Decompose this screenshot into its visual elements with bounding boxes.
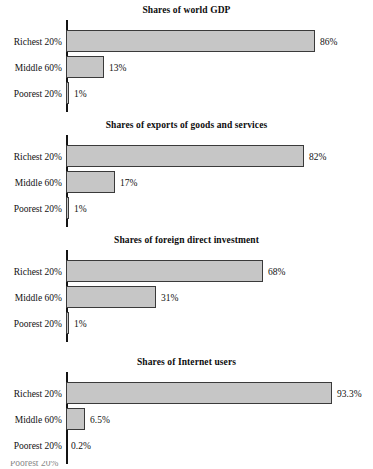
category-label: Middle 60% <box>0 415 62 425</box>
clipped-next-chart-label: Poorest 20% <box>0 461 373 469</box>
figure-page: Shares of world GDP Richest 20% 86% Midd… <box>0 0 373 469</box>
bar-row: Richest 20% 86% <box>0 30 373 56</box>
category-label: Middle 60% <box>0 293 62 303</box>
bar-row: Poorest 20% 1% <box>0 82 373 108</box>
bar-row: Richest 20% 93.3% <box>0 382 373 408</box>
category-label: Poorest 20% <box>0 89 62 99</box>
chart-title: Shares of foreign direct investment <box>0 235 373 245</box>
chart-title: Shares of world GDP <box>0 5 373 15</box>
bar[interactable] <box>66 145 304 167</box>
bar[interactable] <box>66 286 156 308</box>
category-label: Richest 20% <box>0 37 62 47</box>
bar-value-label: 1% <box>74 319 87 329</box>
bar-value-label: 0.2% <box>71 441 91 451</box>
bar-value-label: 82% <box>309 152 326 162</box>
chart-plot-area: Richest 20% 82% Middle 60% 17% Poorest 2… <box>0 135 373 230</box>
chart-title: Shares of Internet users <box>0 357 373 367</box>
chart-plot-area: Richest 20% 68% Middle 60% 31% Poorest 2… <box>0 250 373 345</box>
clipped-label-text: Poorest 20% <box>10 461 58 468</box>
bar-row: Richest 20% 68% <box>0 260 373 286</box>
bar-value-label: 86% <box>320 37 337 47</box>
chart-title: Shares of exports of goods and services <box>0 120 373 130</box>
bar-row: Richest 20% 82% <box>0 145 373 171</box>
bar[interactable] <box>66 56 104 78</box>
bar[interactable] <box>66 312 69 334</box>
bar[interactable] <box>66 171 115 193</box>
bar-row: Middle 60% 13% <box>0 56 373 82</box>
bar[interactable] <box>66 382 332 404</box>
bar-value-label: 1% <box>74 89 87 99</box>
category-label: Richest 20% <box>0 267 62 277</box>
bar-row: Poorest 20% 1% <box>0 312 373 338</box>
category-label: Middle 60% <box>0 178 62 188</box>
bar-value-label: 93.3% <box>337 389 362 399</box>
bar-value-label: 17% <box>120 178 137 188</box>
category-label: Poorest 20% <box>0 441 62 451</box>
bar-value-label: 6.5% <box>90 415 110 425</box>
category-label: Poorest 20% <box>0 204 62 214</box>
category-label: Richest 20% <box>0 389 62 399</box>
bar[interactable] <box>66 82 69 104</box>
chart-plot-area: Richest 20% 86% Middle 60% 13% Poorest 2… <box>0 20 373 115</box>
bar-value-label: 68% <box>268 267 285 277</box>
bar-row: Middle 60% 17% <box>0 171 373 197</box>
bar-value-label: 1% <box>74 204 87 214</box>
bar-value-label: 31% <box>161 293 178 303</box>
bar-row: Poorest 20% 1% <box>0 197 373 223</box>
bar-row: Poorest 20% 0.2% <box>0 434 373 460</box>
bar[interactable] <box>66 197 69 219</box>
category-label: Richest 20% <box>0 152 62 162</box>
bar[interactable] <box>66 408 85 430</box>
chart-plot-area: Richest 20% 93.3% Middle 60% 6.5% Poores… <box>0 372 373 467</box>
bar-row: Middle 60% 31% <box>0 286 373 312</box>
bar[interactable] <box>66 30 315 52</box>
bar-row: Middle 60% 6.5% <box>0 408 373 434</box>
bar-value-label: 13% <box>109 63 126 73</box>
category-label: Poorest 20% <box>0 319 62 329</box>
bar[interactable] <box>66 260 263 282</box>
category-label: Middle 60% <box>0 63 62 73</box>
